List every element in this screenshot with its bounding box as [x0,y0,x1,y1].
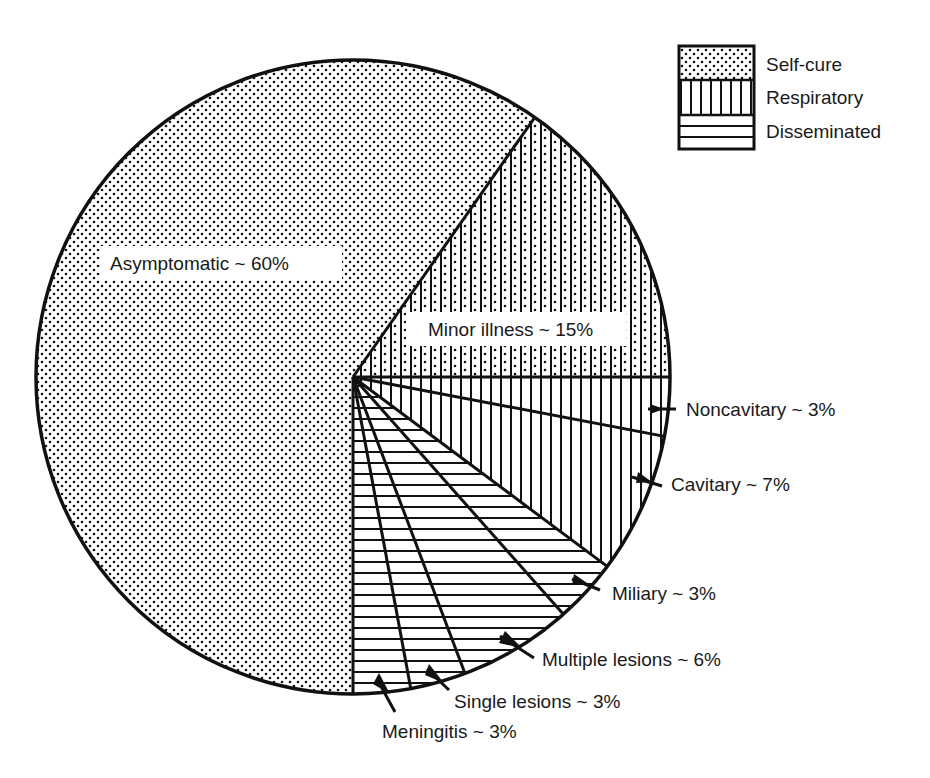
label-noncavitary: Noncavitary ~ 3% [686,399,836,420]
label-minor-illness: Minor illness ~ 15% [406,312,626,346]
legend-label-respiratory: Respiratory [766,87,864,108]
label-multiple-lesions: Multiple lesions ~ 6% [542,649,721,670]
legend-label-disseminated: Disseminated [766,121,881,142]
label-cavitary: Cavitary ~ 7% [671,474,790,495]
legend-swatch-respiratory [679,80,754,115]
legend-swatch-disseminated [679,115,754,149]
label-asymptomatic: Asymptomatic ~ 60% [100,246,342,280]
label-single-lesions: Single lesions ~ 3% [454,691,620,712]
label-meningitis: Meningitis ~ 3% [382,721,517,742]
legend-swatch-self-cure [679,46,754,80]
pie-chart: Asymptomatic ~ 60% Minor illness ~ 15% N… [0,0,930,778]
svg-text:Minor illness ~ 15%: Minor illness ~ 15% [428,319,593,340]
legend-label-self-cure: Self-cure [766,54,842,75]
label-miliary: Miliary ~ 3% [612,583,716,604]
legend: Self-cure Respiratory Disseminated [679,46,881,149]
svg-text:Asymptomatic ~ 60%: Asymptomatic ~ 60% [110,253,289,274]
